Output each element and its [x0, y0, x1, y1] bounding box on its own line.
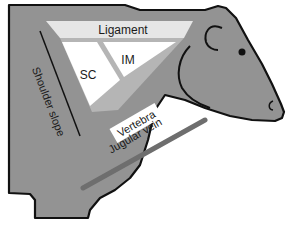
eye-icon [239, 49, 246, 56]
sc-label: SC [80, 68, 97, 82]
figure-caption [2, 229, 292, 236]
cattle-neck-diagram: Vertebra Ligament SC IM Shoulder slope J… [0, 0, 294, 236]
ligament-label: Ligament [98, 23, 148, 37]
im-label: IM [121, 53, 134, 67]
